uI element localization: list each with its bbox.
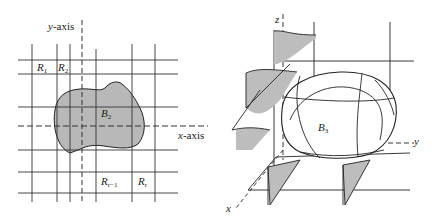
cell-label-r2: R2	[58, 62, 68, 75]
region-label-b2: B2	[101, 108, 111, 121]
z-axis-label: z	[275, 14, 279, 25]
left-figure	[18, 20, 208, 202]
y-axis-label: y-axis	[48, 21, 74, 32]
region-b2	[54, 82, 144, 153]
right-figure	[232, 14, 414, 208]
x-axis-label: x-axis	[178, 130, 204, 141]
region-label-b3: B3	[318, 122, 328, 135]
x-axis-label-3d: x	[226, 203, 231, 214]
cell-label-r1: R1	[37, 62, 47, 75]
y-axis-label-3d: y	[414, 136, 419, 147]
cell-label-r-minus-1: Rr−1	[101, 176, 118, 189]
diagram-canvas	[0, 0, 432, 220]
cell-label-r: Rr	[138, 176, 147, 189]
